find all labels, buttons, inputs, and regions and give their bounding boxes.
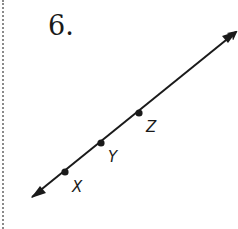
- label-z: Z: [145, 118, 157, 136]
- point-z: [135, 109, 142, 116]
- point-y: [97, 139, 104, 146]
- line-diagram: X Y Z: [0, 0, 238, 229]
- problem-frame: 6. X Y Z: [0, 0, 238, 229]
- label-x: X: [71, 178, 83, 196]
- point-x: [61, 168, 68, 175]
- label-y: Y: [108, 148, 119, 166]
